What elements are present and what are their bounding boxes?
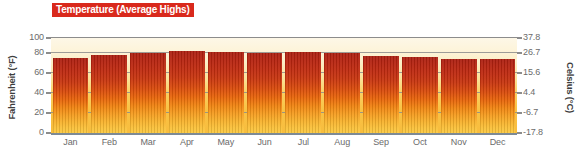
bar-nov[interactable]: [441, 59, 477, 133]
tick-label-20f: 20: [18, 107, 44, 117]
plot-area: [51, 38, 517, 133]
bar-slot: [167, 38, 206, 133]
month-label-jun: Jun: [245, 135, 284, 155]
bar-jan[interactable]: [53, 58, 89, 133]
month-label-dec: Dec: [478, 135, 517, 155]
tick-mark-right: [517, 72, 522, 74]
bar-slot: [51, 38, 90, 133]
bar-mar[interactable]: [130, 53, 166, 133]
bar-oct[interactable]: [402, 57, 438, 133]
tick-label-4-4c: 4.4: [523, 87, 555, 97]
tick-label-40f: 40: [18, 87, 44, 97]
tick-mark-right: [517, 92, 522, 94]
bar-jul[interactable]: [285, 52, 321, 133]
tick-mark-left: [46, 52, 51, 54]
bar-aug[interactable]: [324, 53, 360, 133]
bar-slot: [129, 38, 168, 133]
month-label-apr: Apr: [167, 135, 206, 155]
y-axis-ticks-left: 100 80 60 40 20 0: [18, 0, 44, 158]
bar-slot: [284, 38, 323, 133]
tick-mark-left: [46, 37, 51, 39]
tick-label-60f: 60: [18, 67, 44, 77]
bar-feb[interactable]: [91, 55, 127, 133]
bar-slot: [439, 38, 478, 133]
bar-slot: [323, 38, 362, 133]
bar-jun[interactable]: [247, 53, 283, 133]
bar-slot: [206, 38, 245, 133]
month-label-mar: Mar: [129, 135, 168, 155]
tick-mark-right: [517, 132, 522, 134]
month-label-aug: Aug: [323, 135, 362, 155]
month-label-may: May: [206, 135, 245, 155]
tick-label-37-8c: 37.8: [523, 32, 555, 42]
bar-slot: [400, 38, 439, 133]
tick-mark-left: [46, 132, 51, 134]
tick-mark-left: [46, 112, 51, 114]
temperature-chart: Temperature (Average Highs) Fahrenheit (…: [0, 0, 579, 158]
tick-mark-left: [46, 72, 51, 74]
tick-label-100f: 100: [18, 32, 44, 42]
month-label-jul: Jul: [284, 135, 323, 155]
tick-label-15-6c: 15.6: [523, 67, 555, 77]
y-axis-ticks-right: 37.8 26.7 15.6 4.4 -6.7 -17.8: [523, 0, 555, 158]
bar-may[interactable]: [208, 52, 244, 133]
x-axis-month-labels: Jan Feb Mar Apr May Jun Jul Aug Sep Oct …: [51, 135, 517, 155]
y-axis-label-left: Fahrenheit (°F): [6, 52, 17, 124]
bar-dec[interactable]: [480, 59, 516, 133]
tick-mark-right: [517, 52, 522, 54]
tick-mark-right: [517, 37, 522, 39]
bar-slot: [245, 38, 284, 133]
bars-layer: [51, 38, 517, 133]
tick-label-0f: 0: [18, 127, 44, 137]
tick-mark-left: [46, 92, 51, 94]
tick-label-neg17-8c: -17.8: [523, 127, 555, 137]
y-axis-label-right: Celsius (°C): [565, 52, 576, 124]
chart-title-badge: Temperature (Average Highs): [52, 3, 194, 17]
month-label-feb: Feb: [90, 135, 129, 155]
month-label-jan: Jan: [51, 135, 90, 155]
tick-mark-right: [517, 112, 522, 114]
bar-apr[interactable]: [169, 51, 205, 133]
tick-label-26-7c: 26.7: [523, 47, 555, 57]
tick-label-80f: 80: [18, 47, 44, 57]
bar-slot: [362, 38, 401, 133]
tick-label-neg6-7c: -6.7: [523, 107, 555, 117]
month-label-nov: Nov: [439, 135, 478, 155]
bar-sep[interactable]: [363, 56, 399, 133]
bar-slot: [90, 38, 129, 133]
month-label-oct: Oct: [400, 135, 439, 155]
bar-slot: [478, 38, 517, 133]
month-label-sep: Sep: [362, 135, 401, 155]
